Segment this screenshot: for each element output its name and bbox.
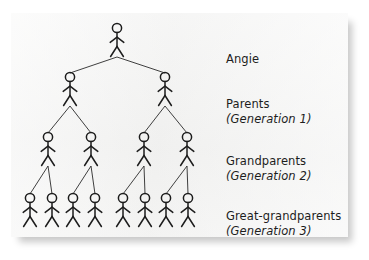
stick-figure-icon <box>84 132 98 165</box>
generation-label-great-grandparents: Great-grandparents (Generation 3) <box>226 209 341 238</box>
stick-figure-icon <box>158 72 172 105</box>
generation-label-generation: (Generation 3) <box>226 224 341 239</box>
generation-label-name: Angie <box>226 52 259 66</box>
generation-label-name: Grandparents <box>226 154 306 168</box>
stick-figure-icon <box>138 193 152 226</box>
figure-level-0 <box>110 23 124 56</box>
generation-label-angie: Angie <box>226 52 259 67</box>
stick-figure-icon <box>23 193 37 226</box>
stick-figure-icon <box>63 72 77 105</box>
diagram-scene: Angie Parents (Generation 1) Grandparent… <box>0 0 369 260</box>
generation-label-name: Parents <box>226 97 270 111</box>
paper-card: Angie Parents (Generation 1) Grandparent… <box>11 13 348 237</box>
stick-figure-icon <box>180 132 194 165</box>
stick-figure-icon <box>66 193 80 226</box>
stick-figure-icon <box>41 132 55 165</box>
figure-level-1 <box>63 72 172 105</box>
generation-label-parents: Parents (Generation 1) <box>226 97 312 126</box>
figure-level-3 <box>23 193 195 226</box>
stick-figure-icon <box>159 193 173 226</box>
stick-figure-icon <box>88 193 102 226</box>
generation-label-grandparents: Grandparents (Generation 2) <box>226 154 312 183</box>
generation-label-generation: (Generation 1) <box>226 112 312 127</box>
generation-label-name: Great-grandparents <box>226 209 341 223</box>
stick-figure-icon <box>110 23 124 56</box>
stick-figure-icon <box>116 193 130 226</box>
generation-label-generation: (Generation 2) <box>226 169 312 184</box>
stick-figure-icon <box>45 193 59 226</box>
tree-edges <box>30 57 188 194</box>
stick-figure-icon <box>181 193 195 226</box>
stick-figure-icon <box>137 132 151 165</box>
figure-level-2 <box>41 132 194 165</box>
